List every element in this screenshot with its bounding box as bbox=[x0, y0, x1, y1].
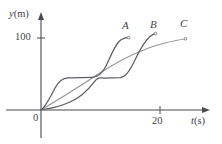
curve-label-b: B bbox=[150, 19, 157, 30]
y-axis-arrowhead bbox=[38, 12, 44, 20]
curve-label-c: C bbox=[180, 18, 187, 29]
y-tick-label-100: 100 bbox=[15, 32, 31, 43]
curve-c-endpoint bbox=[184, 38, 187, 41]
curve-a-endpoint bbox=[127, 36, 130, 39]
x-axis-unit: (s) bbox=[194, 115, 205, 126]
y-axis-unit: (m) bbox=[14, 8, 29, 19]
curve-label-a: A bbox=[122, 20, 129, 31]
x-axis-title: t(s) bbox=[191, 116, 205, 127]
x-axis-arrowhead bbox=[202, 107, 210, 113]
graph-figure: y(m) 100 0 20 t(s) A B C bbox=[0, 0, 222, 144]
y-axis-title: y(m) bbox=[9, 9, 29, 20]
curve-a-path bbox=[42, 38, 129, 110]
origin-label: 0 bbox=[33, 113, 38, 124]
x-tick-label-20: 20 bbox=[152, 116, 163, 127]
curve-b-endpoint bbox=[154, 32, 157, 35]
curve-b-path bbox=[42, 34, 156, 110]
